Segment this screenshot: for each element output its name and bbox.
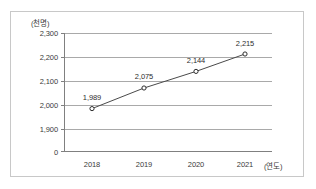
marker-2021 <box>243 52 247 56</box>
gridlines <box>64 34 272 130</box>
chart-figure: (천명) 2,300 2,200 2,100 2,000 1,900 0 201… <box>0 0 316 189</box>
chart-plot <box>0 0 316 189</box>
marker-2019 <box>142 86 146 90</box>
marker-2020 <box>194 69 198 73</box>
axis-lines <box>64 33 272 152</box>
y-tick-marks <box>61 34 64 152</box>
marker-2018 <box>90 107 94 111</box>
